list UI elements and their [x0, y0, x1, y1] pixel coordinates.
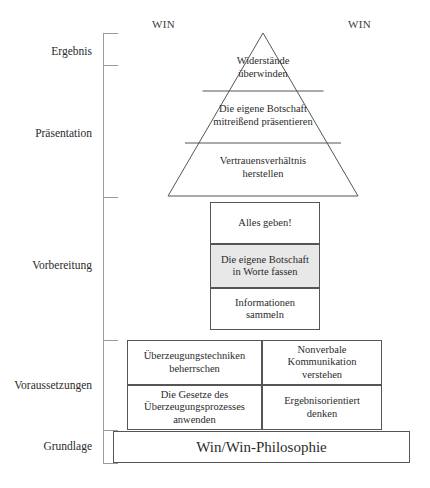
prerequisite-cell-nonverbale-line1: Nonverbale: [298, 344, 347, 355]
pyramid-tier-top-line2: überwinden: [166, 68, 360, 81]
prerequisite-cell-ueberzeugungstechniken-line1: Überzeugungstechniken: [144, 350, 245, 361]
pyramid-tier-middle-line1: Die eigene Botschaft: [219, 103, 307, 114]
pyramid-tier-bottom-line1: Vertrauensverhältnis: [220, 155, 306, 166]
prerequisite-cell-gesetze: Die Gesetze des Überzeugungsprozesses an…: [127, 385, 262, 430]
axis-tick-ergebnis-bottom: [103, 65, 118, 66]
presentation-pyramid: Widerstände überwinden Die eigene Botsch…: [166, 31, 360, 198]
win-label-left: WIN: [152, 18, 175, 30]
axis-tick-vorbereitung-bottom: [103, 340, 118, 341]
phase-label-vorbereitung: Vorbereitung: [2, 259, 92, 272]
pyramid-tier-bottom-text: Vertrauensverhältnis herstellen: [166, 155, 360, 180]
foundation-bar: Win/Win-Philosophie: [113, 431, 410, 463]
prerequisite-cell-ueberzeugungstechniken-line2: beherrschen: [144, 363, 245, 376]
preparation-box-botschaft-worte: Die eigene Botschaft in Worte fassen: [210, 244, 320, 288]
prerequisite-cell-ergebnisorientiert-line1: Ergebnisorientiert: [284, 395, 360, 406]
preparation-box-informationen-line2: sammeln: [235, 309, 295, 322]
preparation-box-alles-geben-label: Alles geben!: [238, 217, 291, 230]
pyramid-tier-middle-line2: mitreißend präsentieren: [166, 116, 360, 129]
preparation-box-botschaft-worte-line1: Die eigene Botschaft: [221, 254, 309, 265]
prerequisite-cell-gesetze-line1: Die Gesetze des: [161, 389, 229, 400]
axis-tick-praesentation-bottom: [103, 197, 118, 198]
preparation-box-botschaft-worte-line2: in Worte fassen: [221, 266, 309, 279]
phase-label-grundlage: Grundlage: [2, 440, 92, 453]
preparation-box-alles-geben: Alles geben!: [210, 202, 320, 244]
preparation-box-botschaft-worte-label: Die eigene Botschaft in Worte fassen: [221, 254, 309, 279]
prerequisite-cell-ergebnisorientiert-line2: denken: [284, 408, 360, 421]
pyramid-tier-middle-text: Die eigene Botschaft mitreißend präsenti…: [166, 103, 360, 128]
pyramid-tier-top-text: Widerstände überwinden: [166, 55, 360, 80]
axis-tick-top: [103, 33, 118, 34]
preparation-box-informationen-line1: Informationen: [235, 297, 295, 308]
win-label-right: WIN: [348, 18, 371, 30]
preparation-box-informationen: Informationen sammeln: [210, 288, 320, 330]
pyramid-tier-top-line1: Widerstände: [237, 55, 290, 66]
preparation-box-informationen-label: Informationen sammeln: [235, 297, 295, 322]
phase-axis-line: [103, 33, 104, 463]
phase-label-voraussetzungen: Voraussetzungen: [2, 379, 92, 392]
prerequisite-cell-gesetze-line2: Überzeugungsprozesses: [144, 401, 245, 414]
phase-label-praesentation: Präsentation: [2, 127, 92, 140]
diagram-canvas: Ergebnis Präsentation Vorbereitung Vorau…: [0, 0, 430, 488]
prerequisite-cell-nonverbale-line2: Kommunikation: [288, 356, 357, 369]
foundation-bar-label: Win/Win-Philosophie: [196, 439, 326, 456]
prerequisite-cell-nonverbale: Nonverbale Kommunikation verstehen: [262, 340, 382, 385]
phase-label-ergebnis: Ergebnis: [2, 45, 92, 58]
pyramid-tier-bottom-line2: herstellen: [166, 168, 360, 181]
axis-tick-bottom: [103, 463, 118, 464]
prerequisite-cell-ergebnisorientiert: Ergebnisorientiert denken: [262, 385, 382, 430]
prerequisite-cell-nonverbale-line3: verstehen: [288, 369, 357, 382]
prerequisite-cell-ueberzeugungstechniken: Überzeugungstechniken beherrschen: [127, 340, 262, 385]
prerequisite-cell-gesetze-line3: anwenden: [144, 414, 245, 427]
